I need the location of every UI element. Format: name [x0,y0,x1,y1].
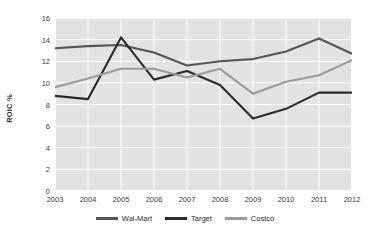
x-tick-label: 2012 [332,195,370,204]
y-tick-label: 12 [30,57,50,66]
legend-item-wal-mart[interactable]: Wal-Mart [96,214,152,223]
legend-item-target[interactable]: Target [165,214,212,223]
legend-label: Target [191,214,212,223]
y-tick-label: 2 [30,165,50,174]
y-tick-label: 14 [30,35,50,44]
legend-swatch-icon [165,217,187,219]
y-tick-label: 8 [30,100,50,109]
legend-label: Costco [251,214,274,223]
legend-swatch-icon [225,217,247,219]
plot-area [55,18,352,191]
legend-swatch-icon [96,217,118,219]
y-tick-label: 4 [30,143,50,152]
y-tick-label: 16 [30,14,50,23]
legend-label: Wal-Mart [122,214,152,223]
y-tick-label: 10 [30,78,50,87]
roic-line-chart: ROIC % 0246810121416 2003200420052006200… [0,0,370,238]
y-tick-label: 6 [30,122,50,131]
series-line-wal-mart [55,39,352,66]
legend-item-costco[interactable]: Costco [225,214,274,223]
data-series-lines [55,18,352,191]
chart-legend: Wal-MartTargetCostco [0,214,370,223]
